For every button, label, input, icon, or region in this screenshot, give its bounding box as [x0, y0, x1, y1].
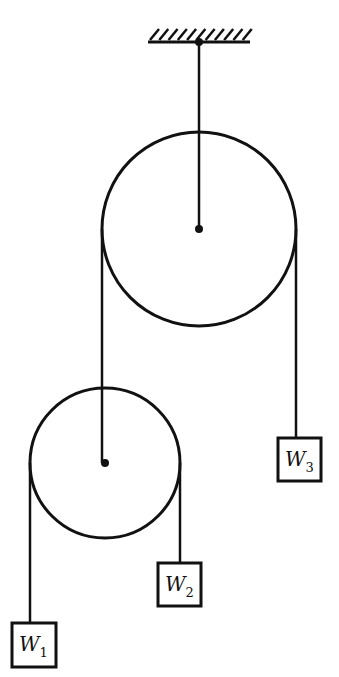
hatch-mark	[187, 29, 196, 40]
hatch-mark	[169, 29, 178, 40]
weight-W2: W2	[158, 563, 201, 606]
hatch-mark	[233, 29, 242, 40]
ropes	[30, 38, 296, 623]
pulleys	[30, 132, 296, 538]
hatch-mark	[224, 29, 233, 40]
hatch-mark	[178, 29, 187, 40]
weight-W1: W1	[12, 623, 56, 667]
hatch-mark	[243, 29, 252, 40]
hatch-mark	[206, 29, 215, 40]
hatch-mark	[150, 29, 159, 40]
weight-W3: W3	[278, 438, 321, 481]
lower-pulley-axle	[101, 459, 109, 467]
pulley-diagram: W1W2W3	[0, 0, 339, 677]
weights: W1W2W3	[12, 438, 321, 667]
hatch-mark	[159, 29, 168, 40]
hatch-mark	[215, 29, 224, 40]
upper-pulley-axle	[195, 225, 203, 233]
